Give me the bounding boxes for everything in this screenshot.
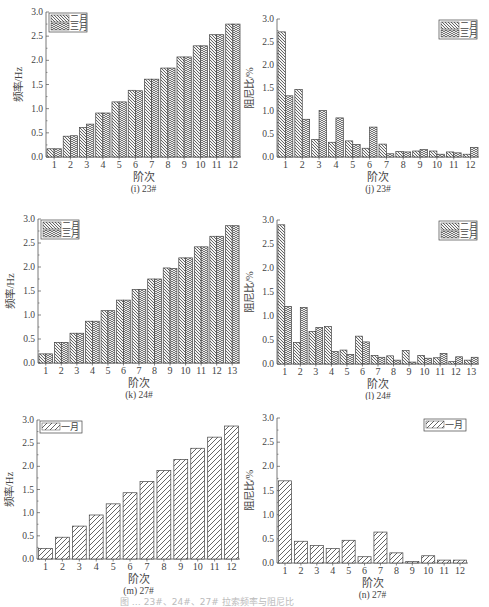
bar — [155, 279, 162, 363]
x-tick-label: 8 — [165, 159, 170, 170]
x-tick-label: 8 — [161, 561, 166, 572]
bar — [174, 459, 188, 559]
x-tick-label: 8 — [401, 159, 406, 170]
x-tick-label: 9 — [418, 159, 423, 170]
legend-swatch — [42, 423, 60, 430]
y-tick-label: 1.0 — [23, 310, 35, 320]
x-tick-label: 3 — [77, 561, 82, 572]
x-tick-label: 5 — [117, 159, 122, 170]
bar — [119, 102, 126, 157]
legend-swatch — [441, 22, 459, 29]
x-tick-label: 7 — [378, 565, 383, 576]
legend-swatch — [51, 15, 69, 22]
bar — [371, 355, 378, 364]
y-tick-label: 1.0 — [262, 510, 274, 520]
bar — [39, 548, 53, 559]
bar — [144, 79, 151, 157]
y-tick-label: 2.0 — [262, 60, 274, 70]
bar — [464, 360, 471, 364]
x-tick-label: 10 — [193, 561, 203, 572]
bar — [326, 549, 339, 564]
bar — [278, 481, 291, 563]
bar — [170, 268, 177, 363]
y-tick-label: 0.5 — [22, 531, 34, 541]
y-tick-label: 0.0 — [262, 359, 274, 369]
bar — [92, 321, 99, 363]
x-tick-label: 7 — [149, 159, 154, 170]
x-tick-label: 1 — [282, 366, 287, 377]
bar — [55, 537, 69, 559]
x-tick-label: 9 — [410, 565, 415, 576]
y-tick-label: 2.0 — [22, 461, 34, 471]
bar — [140, 482, 154, 559]
bar — [463, 154, 470, 157]
bar — [356, 336, 363, 364]
y-axis-label: 频率/Hz — [4, 273, 16, 309]
y-tick-label: 0.5 — [262, 335, 274, 345]
bar — [233, 24, 240, 157]
legend: 二月三月 — [439, 221, 478, 240]
legend: 一月 — [40, 421, 82, 433]
bar — [325, 327, 332, 364]
x-tick-label: 3 — [317, 159, 322, 170]
x-tick-label: 4 — [100, 159, 105, 170]
bar — [47, 149, 54, 157]
x-tick-label: 4 — [333, 159, 338, 170]
x-tick-label: 10 — [432, 159, 442, 170]
bar — [406, 562, 419, 563]
x-tick-label: 5 — [344, 366, 349, 377]
bar — [117, 300, 124, 363]
y-tick-label: 1.5 — [23, 286, 35, 296]
bar — [168, 68, 175, 157]
x-tick-label: 8 — [152, 365, 157, 376]
legend-label: 三月 — [460, 29, 478, 39]
x-tick-label: 10 — [195, 159, 205, 170]
bar — [72, 526, 86, 559]
legend-swatch — [51, 23, 69, 30]
y-tick-label: 2.5 — [262, 437, 274, 447]
y-tick-label: 0.5 — [262, 534, 274, 544]
legend-label: 一月 — [445, 420, 463, 430]
bar — [329, 142, 336, 157]
bar — [209, 35, 216, 157]
legend-swatch — [43, 222, 61, 229]
x-tick-label: 12 — [227, 561, 237, 572]
y-tick-label: 2.5 — [22, 438, 34, 448]
bar — [449, 362, 456, 364]
bar — [302, 119, 309, 157]
y-tick-label: 3.0 — [31, 7, 43, 17]
bar — [374, 532, 387, 563]
y-tick-label: 2.5 — [23, 238, 35, 248]
chart-subtitle: (j) 23# — [365, 184, 391, 195]
bar — [370, 127, 377, 157]
bar — [440, 353, 447, 364]
x-tick-label: 3 — [314, 565, 319, 576]
x-tick-label: 9 — [178, 561, 183, 572]
bar — [456, 357, 463, 364]
x-tick-label: 11 — [210, 561, 220, 572]
bar — [70, 333, 77, 363]
x-tick-label: 6 — [360, 366, 365, 377]
y-tick-label: 2.0 — [23, 262, 35, 272]
y-tick-label: 1.0 — [262, 311, 274, 321]
x-tick-label: 11 — [196, 365, 206, 376]
x-tick-label: 1 — [43, 561, 48, 572]
bar — [46, 354, 53, 363]
bar — [278, 225, 285, 364]
x-tick-label: 7 — [376, 366, 381, 377]
bar — [362, 342, 369, 364]
bar — [210, 236, 217, 363]
x-tick-label: 6 — [128, 561, 133, 572]
bar — [200, 46, 207, 157]
x-tick-label: 6 — [367, 159, 372, 170]
x-tick-label: 5 — [111, 561, 116, 572]
chart-panel-m: 0.00.51.01.52.02.53.0123456789101112阶次(m… — [0, 400, 245, 607]
bar — [184, 57, 191, 157]
bar — [163, 268, 170, 363]
bar — [135, 91, 142, 157]
bar — [422, 556, 435, 563]
legend: 二月三月 — [439, 20, 478, 39]
x-tick-label: 1 — [282, 565, 287, 576]
x-tick-label: 2 — [298, 565, 303, 576]
bar — [300, 307, 307, 364]
